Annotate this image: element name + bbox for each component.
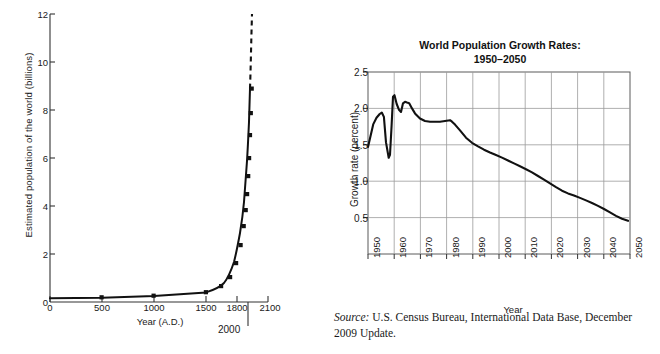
right-xtick-2010: 2010 xyxy=(529,237,539,258)
source-note: Source: U.S. Census Bureau, Internationa… xyxy=(334,310,634,341)
left-xtick-1500: 1500 xyxy=(195,303,216,313)
left-x-tick-labels: 0 500 1000 1500 1800 2100 xyxy=(0,0,330,354)
right-xtick-1950: 1950 xyxy=(372,237,382,258)
source-text: U.S. Census Bureau, International Data B… xyxy=(334,311,632,339)
right-xtick-1960: 1960 xyxy=(398,237,408,258)
left-xtick-1000: 1000 xyxy=(143,303,164,313)
right-xtick-1980: 1980 xyxy=(451,237,461,258)
left-xtick-1800: 1800 xyxy=(226,303,247,313)
left-xtick-0: 0 xyxy=(47,303,52,313)
left-xtick-2100: 2100 xyxy=(259,303,280,313)
right-xtick-2040: 2040 xyxy=(608,237,618,258)
right-xtick-2050: 2050 xyxy=(634,237,644,258)
right-x-tick-labels: 1950 1960 1970 1980 1990 2000 2010 2020 … xyxy=(330,0,660,354)
source-label: Source: xyxy=(334,311,369,323)
right-xtick-1990: 1990 xyxy=(477,237,487,258)
figure-root: Estimated population of the world (billi… xyxy=(0,0,660,354)
right-xtick-1970: 1970 xyxy=(424,237,434,258)
left-xtick-500: 500 xyxy=(94,303,110,313)
right-xtick-2000: 2000 xyxy=(503,237,513,258)
growth-rate-chart: World Population Growth Rates: 1950–2050 xyxy=(330,0,660,354)
population-estimate-chart: Estimated population of the world (billi… xyxy=(0,0,330,354)
right-xtick-2020: 2020 xyxy=(555,237,565,258)
right-xtick-2030: 2030 xyxy=(582,237,592,258)
